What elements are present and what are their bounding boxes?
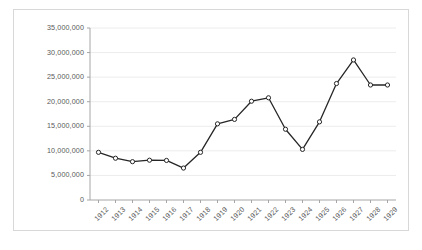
data-point (96, 150, 100, 154)
y-tick-label: 30,000,000 (18, 48, 84, 57)
data-point (232, 117, 236, 121)
data-point (283, 127, 287, 131)
data-point (113, 156, 117, 160)
data-point (300, 147, 304, 151)
data-point (368, 83, 372, 87)
data-point (385, 83, 389, 87)
y-tick-label: 0 (18, 195, 84, 204)
gridlines (90, 28, 396, 175)
data-point (181, 166, 185, 170)
data-line (99, 60, 388, 168)
chart-figure: 05,000,00010,000,00015,000,00020,000,000… (0, 0, 422, 250)
data-point (266, 96, 270, 100)
data-point (351, 58, 355, 62)
y-tick-label: 20,000,000 (18, 97, 84, 106)
data-point (317, 120, 321, 124)
data-point (164, 158, 168, 162)
y-tick-label: 25,000,000 (18, 72, 84, 81)
y-tick-label: 35,000,000 (18, 23, 84, 32)
data-point (130, 160, 134, 164)
y-tick-label: 15,000,000 (18, 121, 84, 130)
data-point (198, 150, 202, 154)
series-line (99, 60, 388, 168)
data-point (215, 122, 219, 126)
data-point (147, 158, 151, 162)
data-point (334, 81, 338, 85)
data-markers (96, 58, 389, 170)
data-point (249, 99, 253, 103)
y-tick-label: 10,000,000 (18, 146, 84, 155)
y-tick-label: 5,000,000 (18, 170, 84, 179)
